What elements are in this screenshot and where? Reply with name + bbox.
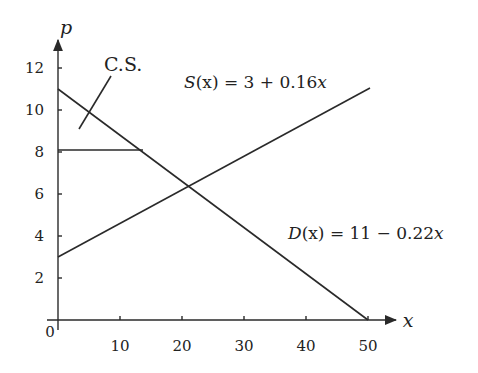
- cs-pointer-line: [79, 76, 111, 129]
- y-tick-label: 12: [25, 59, 44, 77]
- x-axis-label: x: [403, 309, 414, 331]
- demand-equation: D(x) = 11 − 0.22x: [287, 223, 444, 243]
- x-tick-label: 20: [172, 337, 191, 355]
- supply-demand-chart: 0 10 20 30 40 50 2 4 6 8 10 12 p x C.S. …: [0, 0, 478, 373]
- y-axis-label: p: [60, 16, 72, 38]
- y-tick-label: 10: [25, 101, 44, 119]
- cs-label: C.S.: [104, 53, 142, 75]
- x-tick-label: 40: [296, 337, 315, 355]
- demand-line: [58, 89, 368, 320]
- y-tick-label: 6: [34, 185, 44, 203]
- supply-equation: S(x) = 3 + 0.16x: [184, 72, 327, 92]
- x-tick-label: 50: [358, 337, 377, 355]
- y-tick-label: 8: [34, 143, 44, 161]
- y-tick-label: 4: [34, 227, 44, 245]
- x-tick-label: 10: [110, 337, 129, 355]
- y-tick-label: 2: [34, 269, 44, 287]
- x-tick-label: 30: [234, 337, 253, 355]
- origin-label: 0: [45, 323, 55, 341]
